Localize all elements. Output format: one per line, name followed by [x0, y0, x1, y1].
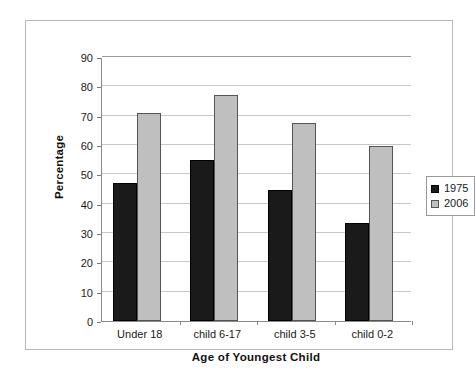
plot-area	[101, 58, 411, 322]
y-tick-label-90: 90	[59, 53, 93, 64]
bar-1975-child-6-17[interactable]	[190, 160, 214, 321]
chart-legend: 19752006	[426, 176, 475, 216]
y-tick-label-70: 70	[59, 111, 93, 122]
bar-1975-child-0-2[interactable]	[345, 223, 369, 321]
y-tick-mark-20	[97, 263, 101, 264]
bar-group-1	[113, 58, 161, 321]
bar-2006-child-3-5[interactable]	[292, 123, 316, 321]
bar-group-3	[268, 58, 316, 321]
bar-2006-Under-18[interactable]	[137, 113, 161, 321]
y-tick-mark-70	[97, 117, 101, 118]
y-tick-mark-30	[97, 234, 101, 235]
y-tick-label-60: 60	[59, 141, 93, 152]
x-tick-label-4: child 0-2	[334, 329, 412, 340]
y-tick-mark-40	[97, 205, 101, 206]
y-tick-mark-10	[97, 293, 101, 294]
grey-square-icon	[431, 200, 439, 208]
y-tick-mark-0	[97, 322, 101, 323]
x-axis-title: Age of Youngest Child	[101, 351, 411, 363]
x-axis-separator-4	[412, 321, 413, 325]
legend-label-2006: 2006	[444, 198, 468, 209]
y-tick-mark-60	[97, 146, 101, 147]
y-tick-label-40: 40	[59, 199, 93, 210]
bar-group-2	[190, 58, 238, 321]
y-tick-label-80: 80	[59, 82, 93, 93]
bar-group-4	[345, 58, 393, 321]
legend-entry-2006[interactable]: 2006	[431, 196, 468, 211]
y-tick-label-20: 20	[59, 258, 93, 269]
x-axis-separator-3	[335, 321, 336, 325]
bar-2006-child-6-17[interactable]	[214, 95, 238, 321]
y-tick-label-0: 0	[59, 317, 93, 328]
y-tick-label-10: 10	[59, 287, 93, 298]
y-tick-label-30: 30	[59, 229, 93, 240]
y-tick-mark-90	[97, 58, 101, 59]
bar-2006-child-0-2[interactable]	[369, 146, 393, 321]
x-tick-label-1: Under 18	[101, 329, 179, 340]
y-tick-label-50: 50	[59, 170, 93, 181]
x-axis-separator-2	[257, 321, 258, 325]
y-tick-mark-80	[97, 87, 101, 88]
x-tick-label-2: child 6-17	[179, 329, 257, 340]
bar-1975-child-3-5[interactable]	[268, 190, 292, 321]
gridline-90	[102, 56, 411, 57]
legend-entry-1975[interactable]: 1975	[431, 181, 468, 196]
chart-frame: Percentage 0102030405060708090 Under 18c…	[25, 20, 453, 350]
black-square-icon	[431, 185, 439, 193]
legend-label-1975: 1975	[444, 183, 468, 194]
y-tick-mark-50	[97, 175, 101, 176]
x-tick-label-3: child 3-5	[256, 329, 334, 340]
bar-1975-Under-18[interactable]	[113, 183, 137, 321]
x-axis-separator-1	[180, 321, 181, 325]
